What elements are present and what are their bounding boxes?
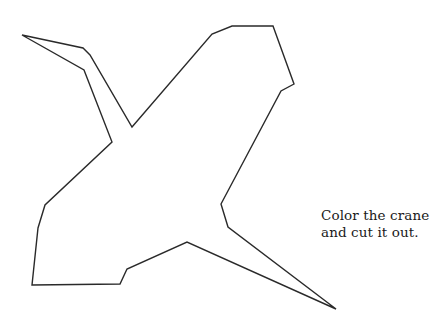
crane-outline	[22, 26, 336, 309]
instructions-line-2: and cut it out.	[321, 224, 429, 241]
instructions-text: Color the crane and cut it out.	[321, 207, 429, 241]
crane-drawing	[0, 0, 439, 331]
instructions-line-1: Color the crane	[321, 207, 429, 224]
